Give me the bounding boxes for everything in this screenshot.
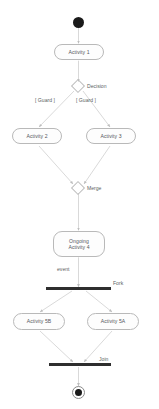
activity-diagram-canvas: Activity 1 Decision [ Guard ] [ Guard ] … — [0, 0, 159, 409]
guard-label-right: [ Guard ] — [76, 97, 96, 103]
edge-activity5b-to-join — [40, 331, 73, 362]
final-node-inner-dot — [75, 389, 82, 396]
edge-fork-to-activity5a — [86, 291, 112, 312]
join-bar[interactable] — [49, 363, 111, 366]
merge-label: Merge — [87, 185, 101, 191]
edge-activity2-to-merge — [39, 146, 73, 184]
edge-fork-to-activity5b — [40, 291, 72, 312]
diagram-connectors — [0, 0, 159, 409]
activity-node-activity5a[interactable]: Activity 5A — [87, 313, 139, 330]
fork-bar[interactable] — [46, 287, 111, 290]
activity-node-activity5b[interactable]: Activity 5B — [13, 313, 65, 330]
fork-label: Fork — [113, 280, 123, 286]
activity-node-activity2[interactable]: Activity 2 — [12, 128, 62, 144]
activity-node-activity3[interactable]: Activity 3 — [86, 128, 136, 144]
event-edge-label: event — [57, 266, 69, 272]
activity-node-activity4[interactable]: Ongoing Activity 4 — [53, 231, 105, 257]
initial-node[interactable] — [73, 17, 84, 28]
decision-label: Decision — [87, 83, 107, 89]
join-label: Join — [99, 356, 108, 362]
edge-activity3-to-merge — [84, 146, 110, 184]
activity-node-activity1[interactable]: Activity 1 — [54, 44, 104, 60]
guard-label-left: [ Guard ] — [35, 97, 55, 103]
